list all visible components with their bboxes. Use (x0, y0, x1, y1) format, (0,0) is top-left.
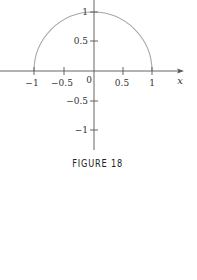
figure-caption: FIGURE 18 (17, 158, 179, 169)
semicircle-curve (34, 12, 152, 71)
y-tick-label: −1 (75, 125, 88, 135)
x-axis-label: x (177, 75, 183, 86)
x-tick-label: −0.5 (51, 78, 73, 88)
semicircle-plot: −1 −0.5 0.5 1 0 x 1 0.5 −0.5 −1 (0, 0, 197, 160)
y-tick-label: 1 (82, 7, 88, 17)
x-tick-label: 0.5 (115, 78, 130, 88)
origin-label: 0 (86, 75, 92, 85)
y-tick-label: 0.5 (74, 36, 89, 46)
y-tick-label: −0.5 (66, 96, 88, 106)
x-tick-label: −1 (25, 78, 38, 88)
x-tick-label: 1 (149, 78, 155, 88)
